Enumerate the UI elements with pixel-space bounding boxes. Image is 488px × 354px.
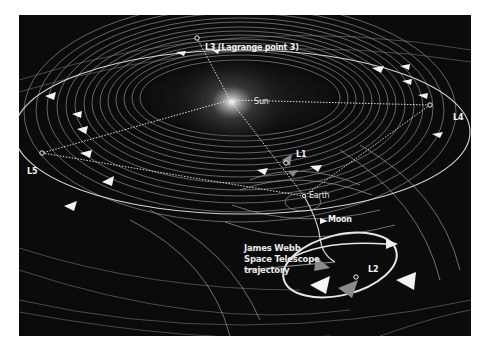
- l3-marker: [195, 36, 199, 40]
- jwst-label-line2: Space Telescope: [244, 254, 320, 265]
- arrow-icon: [386, 239, 398, 249]
- jwst-label-line1: James Webb: [244, 243, 320, 254]
- arrow-icon: [80, 150, 92, 158]
- arrow-icon: [396, 272, 416, 290]
- diagram-canvas: [19, 15, 471, 336]
- sun-glow: [172, 54, 292, 150]
- l5-marker: [40, 151, 44, 155]
- l1-marker: [284, 161, 288, 165]
- arrow-icon: [310, 276, 330, 294]
- grey-arrows: [282, 154, 358, 298]
- l4-label: L4: [453, 114, 463, 122]
- l2-marker: [354, 275, 358, 279]
- arrow-icon: [418, 93, 428, 99]
- moon-label: Moon: [328, 216, 352, 224]
- lagrange-diagram: L3 (Lagrange point 3) Sun L4 L5 L1 Earth…: [19, 15, 471, 336]
- l3-label: L3 (Lagrange point 3): [205, 44, 299, 52]
- earth-marker: [302, 194, 305, 197]
- l3-note: (Lagrange point 3): [218, 43, 299, 52]
- sun-label: Sun: [254, 98, 269, 106]
- arrow-icon: [372, 66, 384, 73]
- l2-label: L2: [368, 266, 378, 274]
- arrow-icon: [432, 132, 443, 138]
- arrow-icon: [64, 201, 77, 211]
- earth-label: Earth: [309, 192, 329, 200]
- arrow-icon: [402, 79, 412, 85]
- l1-label: L1: [296, 151, 306, 159]
- arrow-icon: [45, 92, 56, 100]
- jwst-label-line3: trajectory: [244, 265, 320, 276]
- l4-marker: [428, 103, 432, 107]
- l5-label: L5: [27, 168, 37, 176]
- arrow-icon: [77, 126, 88, 134]
- arrow-icon: [257, 168, 268, 175]
- jwst-label: James Webb Space Telescope trajectory: [244, 243, 320, 276]
